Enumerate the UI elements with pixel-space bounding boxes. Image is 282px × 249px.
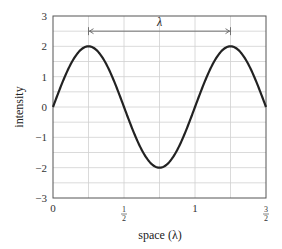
x-tick-label: 0: [50, 202, 56, 214]
x-axis-ticks: 012132: [50, 202, 269, 223]
svg-text:2: 2: [264, 214, 268, 223]
x-tick-label-fraction: 32: [263, 205, 269, 223]
x-tick-label-fraction: 12: [121, 205, 127, 223]
x-tick-label: 1: [192, 202, 198, 214]
svg-text:2: 2: [122, 214, 126, 223]
y-axis-label: intensity: [12, 86, 26, 127]
y-tick-label: 3: [42, 10, 48, 22]
y-tick-label: 1: [42, 71, 48, 83]
grid-lines: [53, 16, 266, 198]
y-tick-label: 0: [42, 101, 48, 113]
y-axis-ticks: 3210−1−2−3: [35, 10, 47, 204]
y-tick-label: 2: [42, 40, 48, 52]
svg-text:3: 3: [264, 205, 268, 214]
y-tick-label: −2: [35, 162, 47, 174]
y-tick-label: −1: [35, 131, 47, 143]
svg-text:1: 1: [122, 205, 126, 214]
wave-chart: 3210−1−2−3 012132 λ space (λ) intensity: [0, 0, 282, 249]
y-tick-label: −3: [35, 192, 47, 204]
lambda-label: λ: [156, 15, 162, 29]
x-axis-label: space (λ): [138, 228, 181, 242]
